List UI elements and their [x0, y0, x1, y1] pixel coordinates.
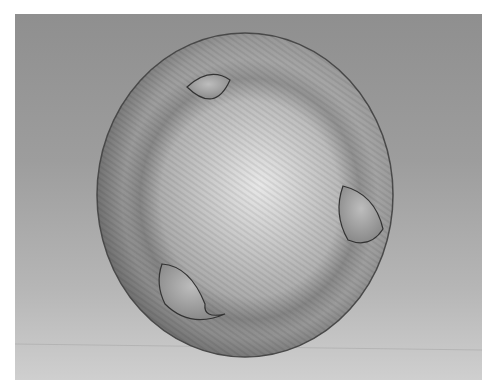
sphere-render	[15, 14, 482, 380]
render-canvas	[15, 14, 482, 380]
